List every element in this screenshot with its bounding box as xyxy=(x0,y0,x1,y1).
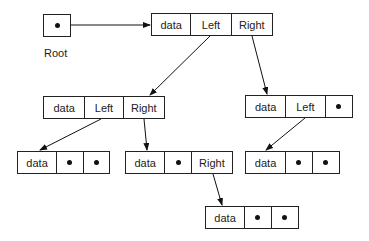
edge-n1-right xyxy=(252,36,267,94)
edge-n2-left xyxy=(40,119,101,150)
edge-n5-right xyxy=(213,174,222,205)
node-null-left-cell xyxy=(165,152,192,173)
edge-n3-left xyxy=(266,118,305,150)
root-pointer-box xyxy=(43,14,71,37)
node-data-cell: data xyxy=(44,97,85,118)
tree-node-left-child: data Left Right xyxy=(43,96,165,119)
node-data-cell: data xyxy=(18,152,57,173)
node-null-right-cell xyxy=(313,152,339,173)
node-left-cell: Left xyxy=(191,14,231,35)
node-left-cell: Left xyxy=(85,97,123,118)
node-right-cell: Right xyxy=(192,152,232,173)
node-data-cell: data xyxy=(246,96,286,117)
tree-node-leaf-3: data xyxy=(205,206,299,229)
node-right-cell: Right xyxy=(232,14,272,35)
pointer-dot-icon xyxy=(55,23,60,28)
node-null-left-cell xyxy=(286,152,312,173)
null-pointer-dot-icon xyxy=(336,104,341,109)
root-label: Root xyxy=(44,47,67,59)
tree-node-leaf-2: data xyxy=(245,151,340,174)
edge-n1-left xyxy=(150,36,210,95)
null-pointer-dot-icon xyxy=(323,160,328,165)
node-data-cell: data xyxy=(152,14,191,35)
node-data-cell: data xyxy=(246,152,286,173)
node-data-cell: data xyxy=(206,207,245,228)
null-pointer-dot-icon xyxy=(176,160,181,165)
null-pointer-dot-icon xyxy=(296,160,301,165)
node-null-right-cell xyxy=(272,207,298,228)
node-right-cell: Right xyxy=(124,97,164,118)
node-null-left-cell xyxy=(245,207,271,228)
node-null-right-cell xyxy=(84,152,109,173)
null-pointer-dot-icon xyxy=(67,160,72,165)
tree-node-right-child: data Left xyxy=(245,95,353,118)
node-data-cell: data xyxy=(126,152,165,173)
edge-n2-right xyxy=(144,119,147,150)
node-null-left-cell xyxy=(57,152,83,173)
root-pointer-cell xyxy=(44,15,70,36)
tree-node-root: data Left Right xyxy=(151,13,273,36)
node-left-cell: Left xyxy=(286,96,325,117)
tree-node-leaf-1: data xyxy=(17,151,110,174)
node-null-right-cell xyxy=(326,96,352,117)
null-pointer-dot-icon xyxy=(94,160,99,165)
null-pointer-dot-icon xyxy=(282,215,287,220)
null-pointer-dot-icon xyxy=(255,215,260,220)
tree-node-inner-right: data Right xyxy=(125,151,233,174)
